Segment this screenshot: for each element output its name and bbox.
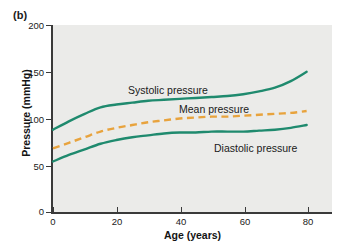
figure-panel: (b) 200 150 100 50 0 0 20 40 60 80 Press… (0, 0, 345, 251)
series-label-mean: Mean pressure (179, 103, 249, 115)
series-label-diastolic: Diastolic pressure (214, 142, 297, 154)
series-label-systolic: Systolic pressure (128, 84, 208, 96)
series-line-systolic (53, 72, 307, 130)
chart-curves (0, 0, 345, 251)
